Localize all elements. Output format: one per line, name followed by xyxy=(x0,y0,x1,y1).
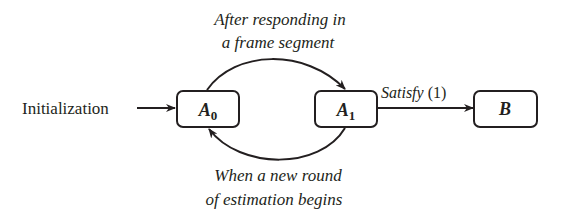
satisfy-label-condition: (1) xyxy=(424,84,447,102)
node-a0: A0 xyxy=(177,91,239,127)
initialization-label: Initialization xyxy=(22,99,109,118)
arc-a0-a1-label-line2: a frame segment xyxy=(222,33,336,52)
arc-a0-to-a1 xyxy=(207,59,345,90)
node-a0-subscript: 0 xyxy=(211,108,218,123)
arc-a1-a0-label-line1: When a new round xyxy=(214,166,342,185)
node-b: B xyxy=(474,91,537,127)
node-b-label: B xyxy=(498,99,511,119)
node-a1-subscript: 1 xyxy=(349,108,356,123)
state-diagram: Initialization A0 A1 B Afte xyxy=(0,0,568,222)
arc-a0-a1-label-line1: After responding in xyxy=(213,10,346,29)
svg-text:Satisfy (1): Satisfy (1) xyxy=(381,84,446,102)
node-a0-base: A xyxy=(198,100,211,120)
arc-a1-to-a0 xyxy=(209,128,345,160)
node-a1: A1 xyxy=(315,91,377,127)
satisfy-label-italic: Satisfy xyxy=(381,84,425,102)
node-a1-base: A xyxy=(336,100,349,120)
arc-a1-a0-label-line2: of estimation begins xyxy=(206,190,343,209)
diagram-svg: Initialization A0 A1 B Afte xyxy=(0,0,568,222)
